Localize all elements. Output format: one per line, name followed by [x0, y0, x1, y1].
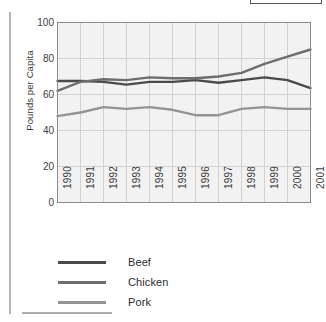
x-tick-label: 1997: [223, 166, 234, 206]
x-tick-label: 1994: [154, 166, 165, 206]
chart-figure: 020406080100 199019911992199319941995199…: [0, 0, 326, 322]
x-tick-label: 2000: [292, 166, 303, 206]
legend-item-pork: Pork: [58, 292, 248, 312]
x-tick-label: 1998: [246, 166, 257, 206]
x-tick-label: 1995: [177, 166, 188, 206]
legend-label: Pork: [128, 296, 151, 308]
legend-swatch-beef: [58, 261, 106, 264]
legend-label: Chicken: [128, 276, 168, 288]
legend-item-beef: Beef: [58, 252, 248, 272]
x-tick-label: 1993: [131, 166, 142, 206]
legend-item-chicken: Chicken: [58, 272, 248, 292]
legend-swatch-pork: [58, 301, 106, 304]
x-tick-label: 1996: [200, 166, 211, 206]
chart-legend: BeefChickenPork: [58, 252, 248, 312]
x-tick-label: 1991: [85, 166, 96, 206]
legend-swatch-chicken: [58, 281, 106, 284]
x-tick-label: 1990: [62, 166, 73, 206]
y-axis-title: Pounds per Capita: [24, 39, 35, 143]
legend-label: Beef: [128, 256, 151, 268]
x-tick-label: 1999: [269, 166, 280, 206]
x-tick-label: 1992: [108, 166, 119, 206]
x-tick-label: 2001: [315, 166, 326, 206]
